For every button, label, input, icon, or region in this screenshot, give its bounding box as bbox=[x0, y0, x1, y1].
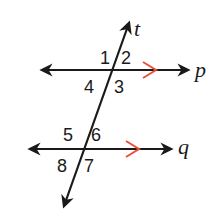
parallel-lines-diagram: t p q 1 2 4 3 5 6 8 7 bbox=[0, 0, 217, 220]
angle-5: 5 bbox=[63, 125, 73, 145]
angle-8: 8 bbox=[57, 156, 67, 176]
angle-2: 2 bbox=[121, 48, 131, 68]
transversal-t bbox=[64, 23, 129, 206]
angle-1: 1 bbox=[100, 48, 110, 68]
angle-4: 4 bbox=[84, 77, 94, 97]
angle-6: 6 bbox=[91, 125, 101, 145]
angle-3: 3 bbox=[114, 77, 124, 97]
angle-7: 7 bbox=[84, 156, 94, 176]
label-p: p bbox=[193, 57, 206, 82]
label-t: t bbox=[134, 16, 141, 41]
label-q: q bbox=[178, 134, 189, 159]
